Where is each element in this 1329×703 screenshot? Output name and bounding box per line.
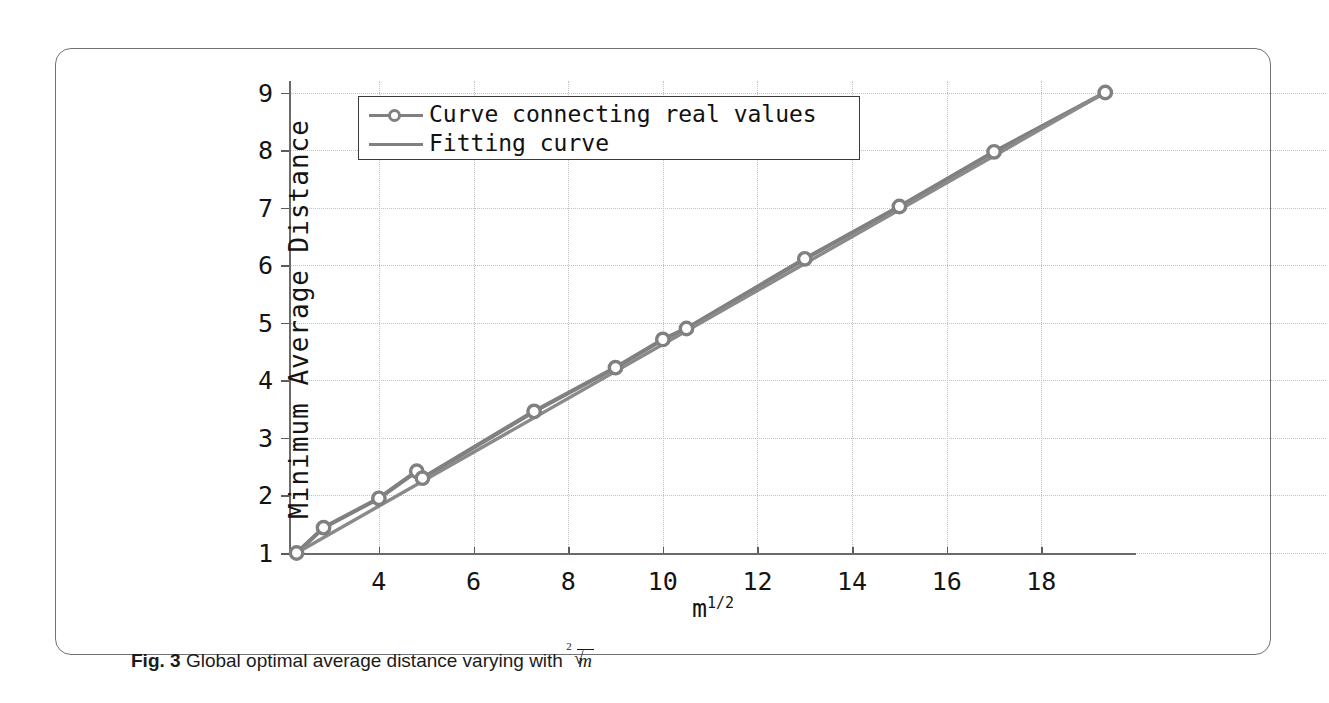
plot-area: 1234567894681012141618 Minimum Average D… xyxy=(289,59,1329,604)
y-tick-label: 7 xyxy=(233,193,273,222)
data-point-marker xyxy=(416,472,428,484)
y-tick xyxy=(281,553,289,555)
data-point-marker xyxy=(528,405,540,417)
y-tick xyxy=(281,93,289,95)
legend-item-fitting-curve: Fitting curve xyxy=(369,129,859,158)
y-tick-label: 4 xyxy=(233,366,273,395)
caption-text: Global optimal average distance varying … xyxy=(186,650,563,671)
data-point-marker xyxy=(373,492,385,504)
y-tick-label: 6 xyxy=(233,251,273,280)
data-point-marker xyxy=(893,200,905,212)
radical-index: 2 xyxy=(566,640,572,652)
data-point-marker xyxy=(988,146,1000,158)
legend-label-fitting-curve: Fitting curve xyxy=(429,132,609,155)
caption-radical-icon: 2√m xyxy=(568,649,594,672)
data-point-marker xyxy=(317,521,329,533)
legend-line-icon xyxy=(369,137,423,151)
data-point-marker xyxy=(1099,86,1111,98)
y-tick-label: 2 xyxy=(233,481,273,510)
data-point-marker xyxy=(799,253,811,265)
caption-figure-number: Fig. 3 xyxy=(131,650,181,671)
y-tick-label: 1 xyxy=(233,539,273,568)
y-tick-label: 8 xyxy=(233,136,273,165)
data-point-marker xyxy=(657,333,669,345)
data-point-marker xyxy=(609,361,621,373)
x-axis-title: m1/2 xyxy=(692,594,734,623)
data-point-marker xyxy=(680,322,692,334)
figure-caption: Fig. 3 Global optimal average distance v… xyxy=(131,649,1231,672)
data-point-marker xyxy=(290,547,302,559)
legend-item-real-values: Curve connecting real values xyxy=(369,100,859,129)
figure-card: 1234567894681012141618 Minimum Average D… xyxy=(55,48,1271,655)
legend: Curve connecting real values Fitting cur… xyxy=(358,96,860,160)
y-tick-label: 9 xyxy=(233,78,273,107)
y-tick-label: 3 xyxy=(233,423,273,452)
y-tick-label: 5 xyxy=(233,308,273,337)
legend-marker-line-icon xyxy=(369,108,423,122)
legend-label-real-values: Curve connecting real values xyxy=(429,103,817,126)
x-axis-title-base: m xyxy=(692,594,707,623)
y-axis-title: Minimum Average Distance xyxy=(284,109,314,529)
x-axis-title-exponent: 1/2 xyxy=(707,594,734,612)
